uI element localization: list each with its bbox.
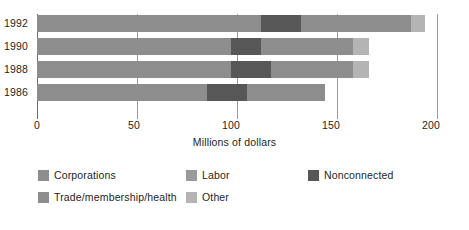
legend-swatch-other-icon [186,192,197,203]
bar-segment [271,61,353,78]
bar-segment [261,38,353,55]
chart-legend: Corporations Labor Nonconnected Trade/me… [38,169,458,213]
bar-segment [353,61,369,78]
y-axis-label-1988: 1988 [0,61,28,78]
legend-row-2: Trade/membership/health Other [38,191,458,213]
legend-item-nonconnected: Nonconnected [308,169,394,181]
y-axis-label-1990: 1990 [0,38,28,55]
x-tick-200: 200 [422,119,443,131]
x-axis-title: Millions of dollars [0,136,469,148]
bar-row [37,61,369,78]
legend-item-corporations: Corporations [38,169,116,181]
bar-segment [231,61,271,78]
x-tick-0: 0 [34,119,43,131]
bar-segment [353,38,369,55]
x-tick-50: 50 [128,119,143,131]
legend-swatch-labor-icon [186,170,197,181]
bar-series-group [37,14,437,114]
legend-row-1: Corporations Labor Nonconnected [38,169,458,191]
bar-segment [301,15,411,32]
bar-segment [37,84,207,101]
x-tick-150: 150 [322,119,343,131]
bar-segment [37,61,231,78]
bar-segment [231,38,261,55]
x-tick-100: 100 [222,119,243,131]
y-axis-label-1986: 1986 [0,84,28,101]
bar-row [37,38,369,55]
legend-label-labor: Labor [202,169,230,181]
legend-item-labor: Labor [186,169,230,181]
plot-area [37,14,437,114]
bar-segment [247,84,325,101]
gridline-200 [437,14,438,119]
legend-label-trade-membership-health: Trade/membership/health [54,191,177,203]
legend-swatch-nonconnected-icon [308,170,319,181]
legend-label-other: Other [202,191,229,203]
legend-label-nonconnected: Nonconnected [324,169,394,181]
legend-item-trade-membership-health: Trade/membership/health [38,191,177,203]
bar-row [37,15,425,32]
bar-segment [261,15,301,32]
legend-swatch-corporations-icon [38,170,49,181]
legend-item-other: Other [186,191,229,203]
legend-label-corporations: Corporations [54,169,116,181]
bar-chart-figure: 1992 1990 1988 1986 0 50 100 150 200 Mil… [0,0,469,230]
bar-segment [207,84,247,101]
bar-segment [37,38,231,55]
bar-row [37,84,325,101]
bar-segment [37,15,261,32]
bar-segment [411,15,425,32]
legend-swatch-trade-membership-health-icon [38,192,49,203]
y-axis-label-1992: 1992 [0,15,28,32]
